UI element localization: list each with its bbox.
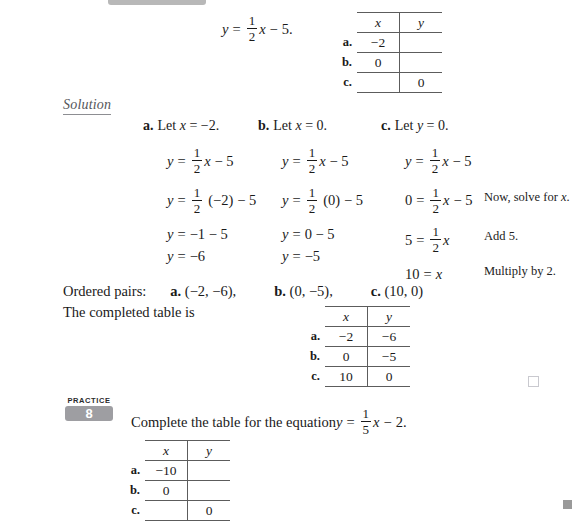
- row-label-blank: [300, 307, 325, 327]
- cell-b-x[interactable]: 0: [145, 481, 188, 501]
- equation-minus: −: [270, 22, 278, 37]
- cell-c-x[interactable]: [145, 501, 188, 521]
- solution-a-line-2: y = 1 2 (−2) − 5: [143, 186, 256, 216]
- solution-b-line-3: y = 0 − 5: [258, 225, 363, 243]
- table-row: b. 0: [120, 481, 230, 501]
- table-row: c. 10 0: [300, 367, 410, 387]
- page-corner-marker-icon: [563, 500, 572, 509]
- equation-variable: x: [259, 22, 265, 37]
- end-of-example-square-icon: [528, 376, 539, 387]
- cell-a-x[interactable]: −2: [357, 33, 400, 53]
- table-row: c. 0: [332, 73, 442, 93]
- row-label-c: c.: [332, 73, 357, 93]
- example-input-table: x y a. −2 b. 0 c. 0: [332, 12, 442, 93]
- row-label-b: b.: [332, 53, 357, 73]
- ordered-pair-value-a: (−2, −6),: [185, 283, 236, 299]
- example-equation: y = 1 2 x − 5.: [222, 14, 293, 44]
- cell-a-x[interactable]: −10: [145, 461, 188, 481]
- practice-instruction-text: Complete the table for the equation: [131, 415, 336, 430]
- column-header-x: x: [357, 13, 400, 33]
- solution-b-label: b.: [258, 118, 269, 133]
- row-label-a: a.: [120, 461, 145, 481]
- equation-lhs: y: [222, 22, 228, 37]
- column-header-x: x: [325, 307, 368, 327]
- annotation-add-5: Add 5.: [484, 229, 518, 244]
- cell-b-y[interactable]: [188, 481, 231, 501]
- table-row: b. 0: [332, 53, 442, 73]
- ordered-pair-label-b: b.: [274, 283, 286, 299]
- fraction-one-half: 1 2: [192, 146, 203, 176]
- column-header-y: y: [368, 307, 411, 327]
- solution-a-header: a.Let x = −2.: [143, 118, 256, 134]
- top-cropped-bar: [108, 0, 206, 5]
- practice-number: 8: [65, 406, 113, 421]
- cell-c-x[interactable]: [357, 73, 400, 93]
- practice-label: PRACTICE: [62, 396, 116, 405]
- table-header-row: x y: [332, 13, 442, 33]
- ordered-pair-value-c: (10, 0): [384, 283, 423, 299]
- row-label-blank: [120, 441, 145, 461]
- cell-c-y[interactable]: 0: [188, 501, 231, 521]
- solution-a-label: a.: [143, 118, 154, 133]
- solution-a-line-3: y = −1 − 5: [143, 225, 256, 243]
- cell-a-y[interactable]: [188, 461, 231, 481]
- cell-c-y[interactable]: 0: [400, 73, 443, 93]
- fraction-one-half: 1 2: [307, 146, 318, 176]
- solution-b-line-4: y = −5: [258, 247, 363, 265]
- row-label-c: c.: [300, 367, 325, 387]
- fraction-one-fifth: 1 5: [361, 407, 372, 437]
- fraction-one-half: 1 2: [247, 14, 258, 44]
- table-row: b. 0 −5: [300, 347, 410, 367]
- ordered-pairs-line: Ordered pairs:a. (−2, −6),b. (0, −5),c. …: [63, 283, 423, 300]
- table-header-row: x y: [120, 441, 230, 461]
- annotation-multiply-by-2: Multiply by 2.: [484, 264, 556, 279]
- table-header-row: x y: [300, 307, 410, 327]
- ordered-pair-value-b: (0, −5),: [290, 283, 333, 299]
- column-header-x: x: [145, 441, 188, 461]
- practice-badge: PRACTICE 8: [62, 396, 116, 421]
- fraction-one-half: 1 2: [430, 146, 441, 176]
- solution-b-line-1: y = 1 2 x − 5: [258, 146, 363, 176]
- solution-column-a: a.Let x = −2. y = 1 2 x − 5 y = 1: [143, 118, 256, 269]
- cell-a-y[interactable]: [400, 33, 443, 53]
- table-row: c. 0: [120, 501, 230, 521]
- table-row: a. −2 −6: [300, 327, 410, 347]
- row-label-b: b.: [120, 481, 145, 501]
- equation-equals: =: [232, 22, 240, 37]
- cell-a-x: −2: [325, 327, 368, 347]
- table-row: a. −2: [332, 33, 442, 53]
- solution-c-header: c.Let y = 0.: [381, 118, 472, 134]
- column-header-y: y: [400, 13, 443, 33]
- annotation-solve-for-x: Now, solve for x.: [484, 190, 570, 205]
- cell-c-x: 10: [325, 367, 368, 387]
- cell-b-y[interactable]: [400, 53, 443, 73]
- practice-table: x y a. −10 b. 0 c. 0: [120, 440, 230, 521]
- solution-a-line-4: y = −6: [143, 247, 256, 265]
- cell-c-y: 0: [368, 367, 411, 387]
- completed-table-caption: The completed table is: [63, 304, 195, 321]
- table-row: a. −10: [120, 461, 230, 481]
- solution-heading: Solution: [63, 97, 111, 115]
- row-label-a: a.: [300, 327, 325, 347]
- cell-b-x: 0: [325, 347, 368, 367]
- ordered-pair-label-c: c.: [371, 283, 381, 299]
- completed-table: x y a. −2 −6 b. 0 −5 c. 10 0: [300, 306, 410, 387]
- fraction-one-half: 1 2: [192, 186, 203, 216]
- solution-c-line-3: 5 = 1 2 x: [381, 225, 472, 255]
- solution-c-line-4: 10 = x: [381, 265, 472, 283]
- column-header-y: y: [188, 441, 231, 461]
- row-label-blank: [332, 13, 357, 33]
- cell-b-y: −5: [368, 347, 411, 367]
- ordered-pairs-label: Ordered pairs:: [63, 283, 146, 299]
- solution-column-c: c.Let y = 0. y = 1 2 x − 5 0 = 1: [381, 118, 472, 287]
- practice-instruction: Complete the table for the equation y = …: [131, 407, 407, 437]
- solution-b-header: b.Let x = 0.: [258, 118, 363, 134]
- cell-b-x[interactable]: 0: [357, 53, 400, 73]
- cell-a-y: −6: [368, 327, 411, 347]
- solution-c-line-1: y = 1 2 x − 5: [381, 146, 472, 176]
- ordered-pair-label-a: a.: [170, 283, 181, 299]
- equation-constant: 5.: [282, 22, 293, 37]
- fraction-one-half: 1 2: [307, 186, 318, 216]
- solution-a-line-1: y = 1 2 x − 5: [143, 146, 256, 176]
- row-label-b: b.: [300, 347, 325, 367]
